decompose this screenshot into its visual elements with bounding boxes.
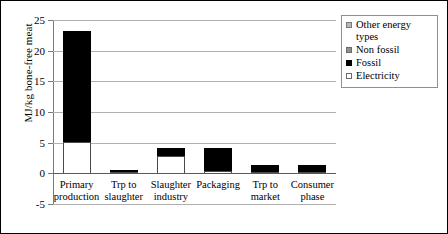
bar-stack (251, 165, 279, 173)
bar-segment (204, 148, 232, 170)
y-tick-label--5: -5 (36, 198, 45, 210)
legend-item[interactable]: Non fossil (346, 44, 434, 56)
bar-segment (251, 172, 279, 173)
electricity-swatch (346, 73, 352, 79)
plot-area: 2520151050-5 (53, 20, 336, 204)
stacked-bar-chart: MJ/kg bone-free meat 2520151050-5 Primar… (0, 0, 448, 234)
bar-group[interactable] (63, 31, 91, 173)
bar-segment (204, 171, 232, 173)
gridline-5 (53, 143, 336, 144)
y-tick-0 (48, 173, 53, 174)
bar-segment (298, 172, 326, 173)
bar-segment (110, 172, 138, 173)
x-axis-label: Primaryproduction (53, 179, 100, 203)
bar-segment (251, 165, 279, 172)
legend-item-label: Fossil (356, 57, 381, 69)
other-energy-types-swatch (346, 22, 352, 28)
legend: Other energy typesNon fossilFossilElectr… (341, 15, 438, 88)
x-axis-label-line: market (242, 191, 289, 203)
bar-stack (298, 165, 326, 173)
x-axis-label-line: Packaging (195, 179, 242, 191)
y-tick--5 (48, 204, 53, 205)
y-tick-10 (48, 112, 53, 113)
x-axis-label-line: Slaughter (147, 179, 194, 191)
legend-item[interactable]: Fossil (346, 57, 434, 69)
y-tick-label-20: 20 (34, 45, 45, 57)
legend-item-label: Other energy types (356, 19, 434, 43)
gridline-0 (53, 173, 336, 174)
x-axis-label-line: phase (289, 191, 336, 203)
x-axis-label-line: Trp to (242, 179, 289, 191)
x-axis-label-line: slaughter (100, 191, 147, 203)
fossil-swatch (346, 60, 352, 66)
legend-item[interactable]: Electricity (346, 70, 434, 82)
bar-stack (204, 148, 232, 173)
y-tick-15 (48, 81, 53, 82)
y-tick-label-15: 15 (34, 75, 45, 87)
x-axis-label-line: Primary (53, 179, 100, 191)
x-axis-label: Trp tomarket (242, 179, 289, 203)
x-axis-label: Slaughterindustry (147, 179, 194, 203)
gridline--5 (53, 204, 336, 205)
y-axis-title: MJ/kg bone-free meat (22, 0, 34, 153)
x-axis-label-line: industry (147, 191, 194, 203)
y-tick-20 (48, 51, 53, 52)
legend-item[interactable]: Other energy types (346, 19, 434, 43)
bar-segment (157, 148, 185, 155)
y-tick-label-10: 10 (34, 106, 45, 118)
y-tick-5 (48, 143, 53, 144)
bar-segment (298, 165, 326, 172)
bar-stack (63, 31, 91, 173)
bar-segment (63, 142, 91, 173)
x-axis-label: Trp toslaughter (100, 179, 147, 203)
gridline-25 (53, 20, 336, 21)
bar-group[interactable] (204, 148, 232, 173)
gridline-15 (53, 81, 336, 82)
x-axis-label-line: Consumer (289, 179, 336, 191)
x-axis-label: Consumerphase (289, 179, 336, 203)
non-fossil-swatch (346, 47, 352, 53)
y-tick-label-25: 25 (34, 14, 45, 26)
bar-segment (157, 156, 185, 173)
bar-group[interactable] (251, 165, 279, 173)
bar-stack (157, 148, 185, 173)
bar-group[interactable] (110, 170, 138, 173)
y-tick-label-0: 0 (40, 167, 46, 179)
y-tick-25 (48, 20, 53, 21)
bar-group[interactable] (157, 148, 185, 173)
gridline-20 (53, 51, 336, 52)
gridline-10 (53, 112, 336, 113)
x-axis-label: Packaging (195, 179, 242, 191)
x-axis-label-line: production (53, 191, 100, 203)
legend-item-label: Non fossil (356, 44, 399, 56)
bar-group[interactable] (298, 165, 326, 173)
bar-segment (63, 31, 91, 143)
x-axis-label-line: Trp to (100, 179, 147, 191)
y-tick-label-5: 5 (40, 137, 46, 149)
bar-stack (110, 170, 138, 173)
legend-item-label: Electricity (356, 70, 400, 82)
